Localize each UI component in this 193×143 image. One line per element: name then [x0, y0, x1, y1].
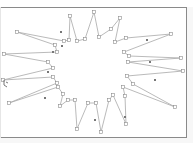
vertex-handle[interactable]	[54, 44, 57, 47]
vertex-handle[interactable]	[128, 55, 131, 58]
vertex-handle[interactable]	[112, 94, 115, 97]
vertex-handle[interactable]	[122, 86, 125, 89]
vertex-handle[interactable]	[56, 82, 59, 85]
vertex-handle[interactable]	[87, 102, 90, 105]
vertex-handle[interactable]	[67, 99, 70, 102]
bezier-control-handle[interactable]	[44, 97, 46, 99]
vertex-handle[interactable]	[108, 99, 111, 102]
vertex-handle[interactable]	[47, 61, 50, 64]
vertex-handle[interactable]	[62, 93, 65, 96]
vertex-handles[interactable]	[2, 11, 185, 134]
bezier-control-handle[interactable]	[124, 116, 126, 118]
vertex-handle[interactable]	[84, 38, 87, 41]
vertex-handle[interactable]	[123, 51, 126, 54]
vertex-handle[interactable]	[125, 123, 128, 126]
vertex-handle[interactable]	[180, 57, 183, 60]
drawing-canvas[interactable]	[0, 0, 193, 143]
vertex-handle[interactable]	[182, 70, 185, 73]
bezier-control-handle[interactable]	[146, 39, 148, 41]
vertex-handle[interactable]	[68, 39, 71, 42]
bezier-control-handle[interactable]	[52, 51, 54, 53]
vertex-handle[interactable]	[95, 102, 98, 105]
vertex-handle[interactable]	[52, 67, 55, 70]
bezier-control-handle[interactable]	[47, 71, 49, 73]
vertex-handle[interactable]	[76, 40, 79, 43]
vertex-handle[interactable]	[8, 102, 11, 105]
vertex-handle[interactable]	[76, 128, 79, 131]
vertex-handle[interactable]	[56, 51, 59, 54]
bezier-control-handle[interactable]	[60, 31, 62, 33]
star-shape[interactable]	[0, 0, 193, 143]
vertex-handle[interactable]	[124, 95, 127, 98]
vertex-handle[interactable]	[57, 86, 60, 89]
vertex-handle[interactable]	[59, 105, 62, 108]
vertex-handle[interactable]	[69, 15, 72, 18]
bezier-control-handle[interactable]	[61, 45, 63, 47]
vertex-handle[interactable]	[63, 40, 66, 43]
star-polygon-outline[interactable]	[3, 12, 183, 132]
vertex-handle[interactable]	[74, 99, 77, 102]
vertex-handle[interactable]	[3, 53, 6, 56]
vertex-handle[interactable]	[52, 76, 55, 79]
vertex-handle[interactable]	[132, 83, 135, 86]
vertex-handle[interactable]	[127, 61, 130, 64]
bezier-control-handle[interactable]	[94, 119, 96, 121]
vertex-handle[interactable]	[93, 11, 96, 14]
vertex-handle[interactable]	[126, 75, 129, 78]
bezier-control-handle[interactable]	[154, 79, 156, 81]
vertex-handle[interactable]	[174, 106, 177, 109]
rotate-cursor-icon	[3, 79, 9, 88]
vertex-handle[interactable]	[170, 33, 173, 36]
vertex-handle[interactable]	[110, 28, 113, 31]
vertex-handle[interactable]	[119, 17, 122, 20]
vertex-handle[interactable]	[16, 31, 19, 34]
vertex-handle[interactable]	[125, 37, 128, 40]
vertex-handle[interactable]	[98, 36, 101, 39]
vertex-handle[interactable]	[114, 41, 117, 44]
bezier-control-handle[interactable]	[149, 61, 151, 63]
vertex-handle[interactable]	[100, 131, 103, 134]
